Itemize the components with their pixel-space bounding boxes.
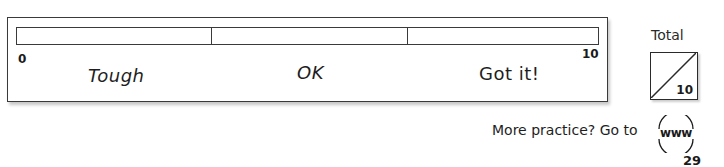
- scale-segment-tough[interactable]: [17, 28, 211, 44]
- scale-max-label: 10: [582, 47, 599, 61]
- total-score-box[interactable]: 10: [650, 52, 698, 100]
- confidence-scale-bar[interactable]: [16, 27, 599, 45]
- www-link-icon[interactable]: www: [655, 115, 697, 153]
- scale-segment-ok[interactable]: [211, 28, 407, 44]
- page-number: 29: [683, 153, 701, 167]
- rating-label-got-it: Got it!: [479, 63, 540, 84]
- more-practice-text: More practice? Go to: [492, 122, 638, 138]
- www-text: www: [655, 126, 697, 140]
- scale-min-label: 0: [18, 52, 26, 66]
- scale-segment-got-it[interactable]: [407, 28, 598, 44]
- total-label: Total: [651, 27, 684, 43]
- total-max-score: 10: [676, 83, 693, 97]
- rating-label-ok: OK: [297, 62, 324, 83]
- rating-label-tough: Tough: [88, 65, 145, 86]
